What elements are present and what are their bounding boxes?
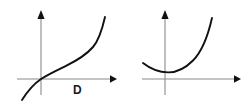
x-axis-arrow-icon-d [110,75,117,83]
graph-panel-e: E [123,0,247,110]
curve-cubic-d [22,17,105,100]
y-axis-arrow-icon-d [37,10,44,19]
x-axis-arrow-icon-e [234,75,241,83]
y-axis-arrow-icon-e [161,10,168,19]
two-graph-figure: D E [0,0,247,110]
graph-e-svg [123,0,247,110]
graph-d-svg [0,0,124,110]
graph-panel-d: D [0,0,124,110]
panel-label-d: D [73,84,82,96]
curve-parabola-e [143,18,212,72]
